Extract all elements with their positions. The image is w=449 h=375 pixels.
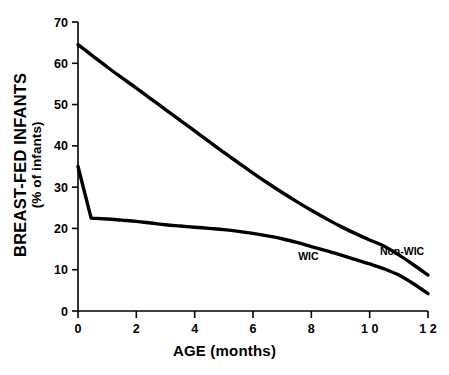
y-tick-label: 70	[54, 16, 68, 30]
y-axis-title: BREAST-FED INFANTS	[11, 73, 29, 257]
x-tick-label: 4	[191, 322, 198, 336]
x-tick-label: 2	[133, 322, 140, 336]
series-label-non-wic: Non-WIC	[380, 245, 425, 257]
y-axis-title-rotated: BREAST-FED INFANTS (% of infants)	[11, 73, 45, 257]
y-tick-label: 10	[54, 263, 68, 277]
y-axis-subtitle: (% of infants)	[30, 73, 45, 257]
chart-canvas: 010203040506070 024681 01 2 Non-WICWIC	[0, 0, 449, 375]
x-tick-label: 1 0	[361, 322, 378, 336]
y-tick-label: 60	[54, 57, 68, 71]
chart-figure: 010203040506070 024681 01 2 Non-WICWIC B…	[0, 0, 449, 375]
x-axis-title: AGE (months)	[0, 342, 449, 359]
y-axis-title-container: BREAST-FED INFANTS (% of infants)	[0, 0, 56, 330]
y-axis-ticks: 010203040506070	[54, 16, 78, 319]
y-tick-label: 30	[54, 181, 68, 195]
y-tick-label: 40	[54, 139, 68, 153]
x-tick-label: 0	[75, 322, 82, 336]
x-axis-ticks: 024681 01 2	[75, 311, 437, 336]
y-tick-label: 50	[54, 98, 68, 112]
y-tick-label: 0	[61, 305, 68, 319]
x-tick-label: 6	[250, 322, 257, 336]
series-line-non-wic	[78, 45, 428, 275]
chart-axes: 010203040506070 024681 01 2	[54, 16, 437, 337]
x-tick-label: 8	[308, 322, 315, 336]
chart-series-group	[78, 45, 428, 294]
series-label-wic: WIC	[298, 250, 319, 262]
series-line-wic	[78, 167, 428, 294]
y-tick-label: 20	[54, 222, 68, 236]
x-tick-label: 1 2	[419, 322, 436, 336]
